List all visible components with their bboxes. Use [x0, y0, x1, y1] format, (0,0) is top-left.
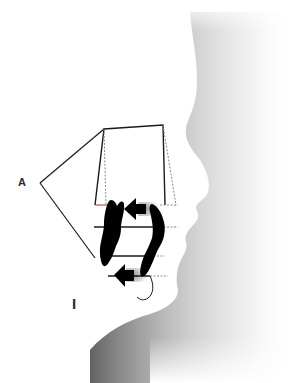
facial-profile-silhouette [90, 0, 299, 383]
dental-profile-diagram [0, 0, 299, 383]
label-i: I [72, 295, 76, 312]
angle-lines [40, 129, 104, 258]
label-a: A [18, 176, 26, 188]
